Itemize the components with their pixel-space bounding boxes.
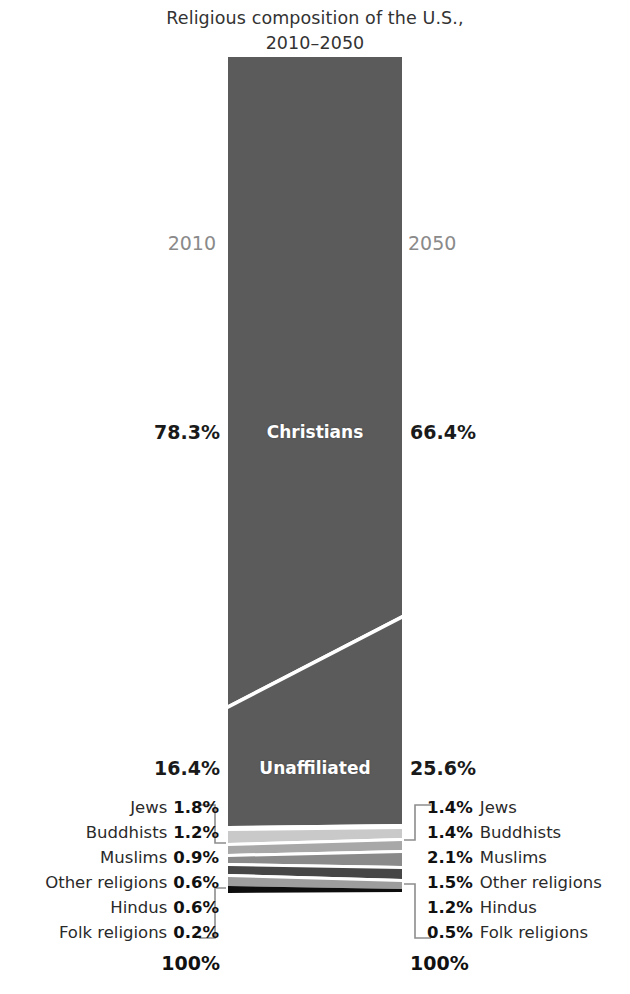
minor-name: Hindus <box>110 898 167 917</box>
minor-name: Folk religions <box>480 923 588 942</box>
list-item: Folk religions0.2% <box>45 920 219 945</box>
minor-pct: 1.2% <box>173 823 219 842</box>
minor-pct: 1.5% <box>427 873 473 892</box>
minor-name: Other religions <box>480 873 602 892</box>
minor-pct: 0.6% <box>173 873 219 892</box>
minor-name: Folk religions <box>59 923 167 942</box>
minor-pct: 1.4% <box>427 823 473 842</box>
chart-canvas: Religious composition of the U.S., 2010–… <box>0 0 630 994</box>
minor-pct: 1.2% <box>427 898 473 917</box>
minor-pct: 0.6% <box>173 898 219 917</box>
year-label-right: 2050 <box>408 232 456 254</box>
minor-name: Muslims <box>480 848 547 867</box>
year-label-left: 2010 <box>168 232 216 254</box>
minor-name: Muslims <box>100 848 167 867</box>
band-christians <box>228 57 402 705</box>
minor-name: Buddhists <box>86 823 167 842</box>
minor-name: Other religions <box>45 873 167 892</box>
list-item: 1.4%Buddhists <box>427 820 602 845</box>
unaffiliated-left-pct: 16.4% <box>154 757 220 779</box>
minor-list-right: 1.4%Jews 1.4%Buddhists 2.1%Muslims 1.5%O… <box>427 795 602 945</box>
list-item: 0.5%Folk religions <box>427 920 602 945</box>
minor-pct: 0.9% <box>173 848 219 867</box>
minor-name: Buddhists <box>480 823 561 842</box>
minor-name: Hindus <box>480 898 537 917</box>
minor-pct: 1.4% <box>427 798 473 817</box>
list-item: Hindus0.6% <box>45 895 219 920</box>
list-item: Other religions0.6% <box>45 870 219 895</box>
unaffiliated-band-label: Unaffiliated <box>228 758 402 778</box>
christians-band-label: Christians <box>228 422 402 442</box>
list-item: Jews1.8% <box>45 795 219 820</box>
list-item: 1.2%Hindus <box>427 895 602 920</box>
minor-pct: 2.1% <box>427 848 473 867</box>
list-item: Muslims0.9% <box>45 845 219 870</box>
total-right: 100% <box>410 952 469 974</box>
minor-name: Jews <box>480 798 517 817</box>
minor-pct: 1.8% <box>173 798 219 817</box>
list-item: 1.5%Other religions <box>427 870 602 895</box>
list-item: 2.1%Muslims <box>427 845 602 870</box>
minor-list-left: Jews1.8% Buddhists1.2% Muslims0.9% Other… <box>45 795 219 945</box>
minor-pct: 0.5% <box>427 923 473 942</box>
christians-left-pct: 78.3% <box>154 421 220 443</box>
list-item: 1.4%Jews <box>427 795 602 820</box>
christians-right-pct: 66.4% <box>410 421 476 443</box>
list-item: Buddhists1.2% <box>45 820 219 845</box>
total-left: 100% <box>161 952 220 974</box>
minor-name: Jews <box>130 798 167 817</box>
unaffiliated-right-pct: 25.6% <box>410 757 476 779</box>
minor-pct: 0.2% <box>173 923 219 942</box>
